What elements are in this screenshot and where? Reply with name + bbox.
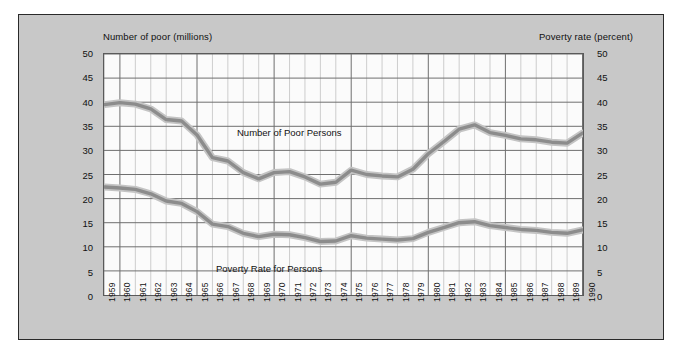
x-tick-1989: 1989: [571, 282, 581, 302]
chart-series-lines: [104, 54, 583, 295]
x-tick-1982: 1982: [463, 282, 473, 302]
chart-figure: Number of poor (millions) Poverty rate (…: [18, 14, 664, 340]
x-tick-1988: 1988: [556, 282, 566, 302]
y-tick-left-5: 5: [71, 266, 93, 277]
y-tick-right-20: 20: [597, 193, 619, 204]
x-tick-1984: 1984: [494, 282, 504, 302]
x-tick-1987: 1987: [540, 282, 550, 302]
y-tick-right-25: 25: [597, 169, 619, 180]
y-tick-right-0: 0: [597, 291, 619, 302]
y-tick-left-45: 45: [71, 72, 93, 83]
x-tick-1976: 1976: [370, 282, 380, 302]
x-tick-1979: 1979: [416, 282, 426, 302]
x-tick-1959: 1959: [107, 282, 117, 302]
y-tick-left-30: 30: [71, 145, 93, 156]
x-tick-1961: 1961: [138, 282, 148, 302]
x-tick-1967: 1967: [231, 282, 241, 302]
y-tick-left-50: 50: [71, 48, 93, 59]
x-tick-1970: 1970: [277, 282, 287, 302]
y-tick-right-50: 50: [597, 48, 619, 59]
x-tick-1969: 1969: [262, 282, 272, 302]
x-tick-1972: 1972: [308, 282, 318, 302]
y-tick-left-10: 10: [71, 242, 93, 253]
x-tick-1977: 1977: [385, 282, 395, 302]
x-tick-1980: 1980: [432, 282, 442, 302]
x-tick-1974: 1974: [339, 282, 349, 302]
x-tick-1965: 1965: [200, 282, 210, 302]
y-tick-right-30: 30: [597, 145, 619, 156]
x-tick-1990: 1990: [587, 282, 597, 302]
y-tick-right-5: 5: [597, 266, 619, 277]
x-tick-1971: 1971: [293, 282, 303, 302]
y-tick-left-40: 40: [71, 96, 93, 107]
series-annotation-number-of-poor: Number of Poor Persons: [237, 127, 342, 138]
x-tick-1973: 1973: [323, 282, 333, 302]
x-tick-1985: 1985: [509, 282, 519, 302]
y-tick-right-15: 15: [597, 218, 619, 229]
x-tick-1966: 1966: [215, 282, 225, 302]
x-tick-1983: 1983: [478, 282, 488, 302]
x-tick-1963: 1963: [169, 282, 179, 302]
y-tick-right-35: 35: [597, 120, 619, 131]
x-tick-1964: 1964: [184, 282, 194, 302]
left-axis-title: Number of poor (millions): [103, 31, 212, 42]
x-tick-1975: 1975: [354, 282, 364, 302]
series-annotation-poverty-rate: Poverty Rate for Persons: [216, 263, 322, 274]
x-tick-1978: 1978: [401, 282, 411, 302]
right-axis-title: Poverty rate (percent): [539, 31, 633, 42]
y-tick-right-10: 10: [597, 242, 619, 253]
x-tick-1960: 1960: [122, 282, 132, 302]
x-tick-1986: 1986: [525, 282, 535, 302]
y-tick-left-0: 0: [71, 291, 93, 302]
x-tick-1962: 1962: [153, 282, 163, 302]
y-tick-left-15: 15: [71, 218, 93, 229]
y-tick-left-35: 35: [71, 120, 93, 131]
plot-area: [103, 53, 584, 296]
y-tick-right-45: 45: [597, 72, 619, 83]
y-tick-right-40: 40: [597, 96, 619, 107]
x-tick-1981: 1981: [447, 282, 457, 302]
y-tick-left-25: 25: [71, 169, 93, 180]
y-tick-left-20: 20: [71, 193, 93, 204]
x-tick-1968: 1968: [246, 282, 256, 302]
